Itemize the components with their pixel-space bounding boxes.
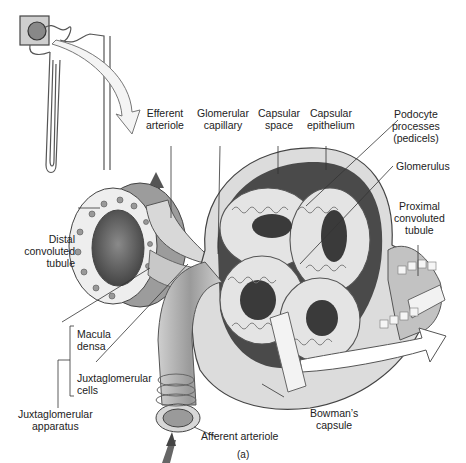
label-distal-convoluted-tubule: Distalconvolutedtubule (20, 233, 75, 269)
figure-caption: (a) (237, 449, 249, 461)
label-bowmans-capsule: Bowman’scapsule (310, 407, 358, 431)
zoom-arrow-inset (52, 40, 140, 134)
label-glomerulus: Glomerulus (396, 160, 450, 172)
nephron-inset (20, 16, 110, 173)
label-proximal-convoluted-tubule: Proximalconvolutedtubule (394, 200, 445, 236)
label-capsular-epithelium: Capsularepithelium (307, 107, 355, 131)
label-podocyte-processes: Podocyteprocesses(pedicels) (392, 108, 440, 144)
label-juxtaglomerular-apparatus: Juxtaglomerularapparatus (18, 408, 93, 432)
label-capsular-space: Capsularspace (258, 107, 300, 131)
label-juxtaglomerular-cells: Juxtaglomerularcells (77, 372, 152, 396)
label-macula-densa: Maculadensa (77, 328, 111, 352)
label-glomerular-capillary: Glomerularcapillary (197, 107, 249, 131)
label-afferent-arteriole: Afferent arteriole (201, 430, 278, 442)
afferent-flow-arrow (166, 432, 176, 446)
label-efferent-arteriole: Efferentarteriole (146, 107, 184, 131)
